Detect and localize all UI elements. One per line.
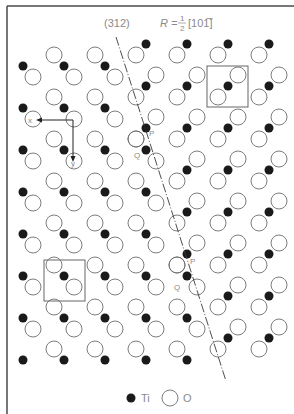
oxygen-atom bbox=[107, 111, 123, 127]
oxygen-atom bbox=[66, 279, 82, 295]
coordinate-axes: x y bbox=[28, 116, 76, 168]
titanium-atom bbox=[224, 82, 233, 91]
titanium-atom bbox=[101, 272, 110, 281]
atom-lattice bbox=[19, 40, 288, 365]
titanium-atom bbox=[224, 208, 233, 217]
titanium-atom bbox=[183, 40, 192, 49]
oxygen-atom bbox=[25, 69, 41, 85]
o-legend-icon bbox=[162, 390, 178, 406]
titanium-atom bbox=[19, 356, 28, 365]
oxygen-atom bbox=[189, 109, 205, 125]
titanium-atom bbox=[224, 334, 233, 343]
oxygen-atom bbox=[87, 89, 103, 105]
vector-direction: [101̅] bbox=[188, 17, 213, 29]
oxygen-atom bbox=[148, 67, 164, 83]
titanium-atom bbox=[265, 40, 274, 49]
titanium-atom bbox=[183, 272, 192, 281]
oxygen-atom bbox=[169, 299, 185, 315]
oxygen-atom bbox=[128, 173, 144, 189]
oxygen-atom bbox=[169, 341, 185, 357]
oxygen-atom bbox=[66, 321, 82, 337]
oxygen-atom bbox=[251, 215, 267, 231]
titanium-atom bbox=[224, 292, 233, 301]
oxygen-atom bbox=[46, 131, 62, 147]
oxygen-atom bbox=[230, 151, 246, 167]
oxygen-atom bbox=[66, 111, 82, 127]
ti-legend-icon bbox=[127, 394, 136, 403]
oxygen-atom bbox=[210, 257, 226, 273]
oxygen-atom bbox=[189, 321, 205, 337]
oxygen-atom bbox=[128, 215, 144, 231]
oxygen-atom bbox=[271, 193, 287, 209]
point-label-q: Q bbox=[134, 151, 140, 160]
oxygen-atom bbox=[107, 153, 123, 169]
titanium-atom bbox=[142, 314, 151, 323]
unit-cells bbox=[44, 66, 248, 301]
oxygen-atom bbox=[189, 193, 205, 209]
titanium-atom bbox=[142, 188, 151, 197]
oxygen-atom bbox=[230, 193, 246, 209]
oxygen-atom bbox=[210, 173, 226, 189]
oxygen-atom bbox=[271, 319, 287, 335]
x-axis-label: x bbox=[28, 116, 32, 125]
oxygen-atom bbox=[107, 195, 123, 211]
y-axis-label: y bbox=[71, 159, 75, 168]
oxygen-atom bbox=[87, 215, 103, 231]
titanium-atom bbox=[60, 188, 69, 197]
oxygen-atom bbox=[107, 237, 123, 253]
oxygen-atom bbox=[251, 131, 267, 147]
oxygen-atom bbox=[271, 67, 287, 83]
oxygen-atom bbox=[271, 151, 287, 167]
oxygen-atom bbox=[210, 89, 226, 105]
oxygen-atom bbox=[251, 47, 267, 63]
titanium-atom bbox=[60, 230, 69, 239]
oxygen-atom bbox=[107, 279, 123, 295]
oxygen-atom bbox=[128, 257, 144, 273]
titanium-atom bbox=[142, 40, 151, 49]
oxygen-atom bbox=[210, 131, 226, 147]
titanium-atom bbox=[60, 104, 69, 113]
titanium-atom bbox=[19, 272, 28, 281]
oxygen-atom bbox=[230, 277, 246, 293]
oxygen-atom bbox=[66, 69, 82, 85]
oxygen-atom bbox=[148, 109, 164, 125]
oxygen-atom bbox=[189, 235, 205, 251]
oxygen-atom bbox=[148, 237, 164, 253]
oxygen-atom bbox=[230, 67, 246, 83]
x-arrowhead-icon bbox=[36, 118, 42, 123]
oxygen-atom bbox=[210, 47, 226, 63]
titanium-atom bbox=[142, 356, 151, 365]
oxygen-atom bbox=[230, 109, 246, 125]
oxygen-atom bbox=[210, 215, 226, 231]
oxygen-atom bbox=[46, 341, 62, 357]
vector-fraction-den: 2 bbox=[180, 24, 185, 33]
oxygen-atom bbox=[87, 131, 103, 147]
titanium-atom bbox=[142, 272, 151, 281]
oxygen-atom bbox=[148, 279, 164, 295]
oxygen-atom bbox=[251, 257, 267, 273]
oxygen-atom bbox=[169, 89, 185, 105]
oxygen-atom bbox=[25, 237, 41, 253]
legend-ti-label: Ti bbox=[141, 392, 150, 404]
titanium-atom bbox=[101, 62, 110, 71]
oxygen-atom bbox=[128, 299, 144, 315]
titanium-atom bbox=[101, 104, 110, 113]
oxygen-atom bbox=[128, 341, 144, 357]
titanium-atom bbox=[60, 356, 69, 365]
oxygen-atom bbox=[169, 257, 185, 273]
oxygen-atom bbox=[66, 237, 82, 253]
titanium-atom bbox=[183, 208, 192, 217]
vector-label-prefix: R = bbox=[160, 17, 178, 29]
legend-o-label: O bbox=[183, 392, 192, 404]
oxygen-atom bbox=[25, 195, 41, 211]
titanium-atom bbox=[265, 166, 274, 175]
titanium-atom bbox=[265, 250, 274, 259]
oxygen-atom bbox=[66, 195, 82, 211]
titanium-atom bbox=[101, 188, 110, 197]
oxygen-atom bbox=[210, 299, 226, 315]
titanium-atom bbox=[183, 124, 192, 133]
titanium-atom bbox=[101, 230, 110, 239]
oxygen-atom bbox=[25, 153, 41, 169]
oxygen-atom bbox=[107, 321, 123, 337]
oxygen-atom bbox=[87, 47, 103, 63]
